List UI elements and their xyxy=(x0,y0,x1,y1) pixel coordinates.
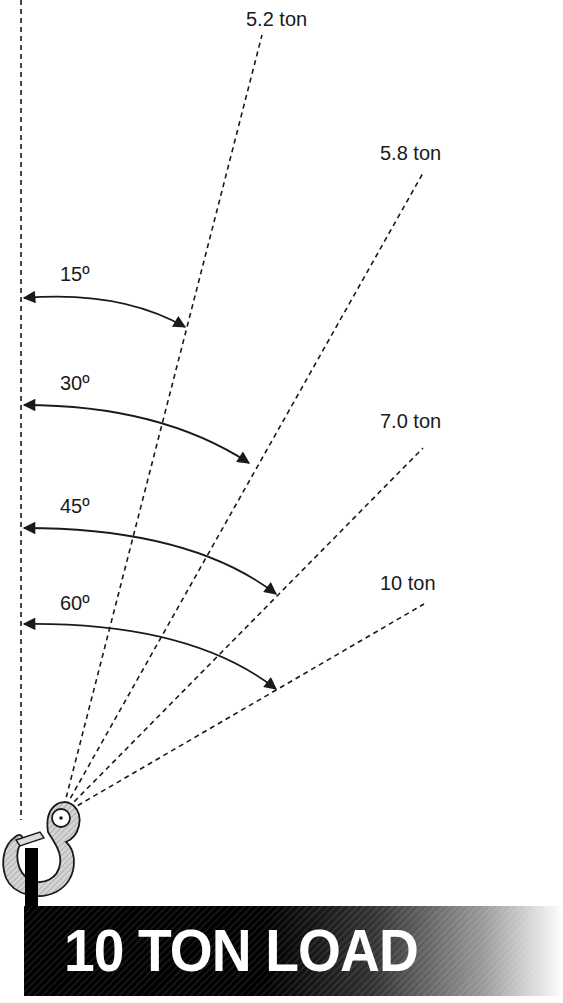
angle-label-60: 60º xyxy=(60,592,90,615)
tension-label-45: 7.0 ton xyxy=(380,410,441,433)
angle-arc-15 xyxy=(24,297,185,327)
tension-label-30: 5.8 ton xyxy=(380,142,441,165)
load-attachment-bar xyxy=(25,848,38,908)
hook-icon xyxy=(3,802,79,896)
tension-label-15: 5.2 ton xyxy=(246,8,307,31)
load-banner: 10 TON LOAD xyxy=(24,906,563,996)
angle-label-15: 15º xyxy=(60,263,90,286)
sling-leg-15 xyxy=(64,35,262,806)
sling-angle-diagram: 15º 30º 45º 60º 5.2 ton 5.8 ton 7.0 ton … xyxy=(0,0,563,1003)
angle-label-30: 30º xyxy=(60,372,90,395)
angle-label-45: 45º xyxy=(60,495,90,518)
sling-leg-30 xyxy=(66,173,423,806)
angle-arc-30 xyxy=(24,405,249,463)
load-label: 10 TON LOAD xyxy=(64,916,418,985)
sling-leg-45 xyxy=(68,448,423,808)
angle-arc-45 xyxy=(24,528,276,594)
sling-leg-60 xyxy=(70,604,424,810)
tension-label-60: 10 ton xyxy=(380,572,436,595)
